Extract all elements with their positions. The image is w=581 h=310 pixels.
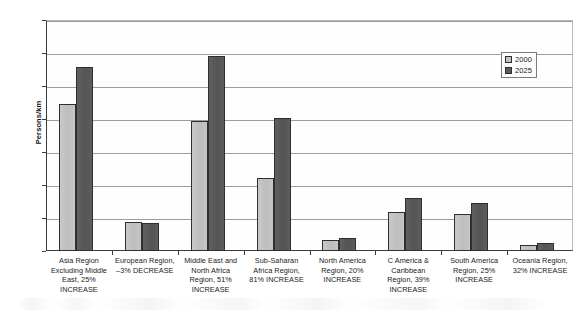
x-axis-tick-mark [507, 251, 508, 255]
legend-swatch-2000-icon [505, 56, 512, 63]
gridline [47, 153, 572, 154]
y-axis-tick-mark [42, 119, 46, 120]
y-axis-tick-mark [42, 86, 46, 87]
x-axis-category-label: Sub-SaharanAfrica Region,81% INCREASE [241, 256, 313, 285]
y-axis-title: Persons/km [34, 78, 43, 168]
x-axis-tick-mark [112, 251, 113, 255]
gridline [47, 120, 572, 121]
legend-item-2025: 2025 [505, 66, 532, 75]
x-axis-tick-mark [244, 251, 245, 255]
legend-label-2000: 2000 [515, 55, 532, 64]
gridline [47, 87, 572, 88]
scan-artifact [0, 298, 581, 310]
x-axis-category-label: Asia RegionExcluding MiddleEast, 25%INCR… [43, 256, 115, 294]
y-axis-tick-mark [42, 251, 46, 252]
x-axis-category-label: Oceania Region,32% INCREASE [504, 256, 576, 275]
gridline [47, 54, 572, 55]
x-axis-tick-mark [178, 251, 179, 255]
x-axis-tick-mark [441, 251, 442, 255]
y-axis-tick-mark [42, 152, 46, 153]
y-axis-tick-mark [42, 53, 46, 54]
x-axis-category-label: European Region,–3% DECREASE [109, 256, 181, 275]
x-axis-category-label: C America &CaribbeanRegion, 39%INCREASE [372, 256, 444, 294]
bar-chart: Persons/km 01000200030004000500060007000… [0, 0, 581, 310]
legend-swatch-2025-icon [505, 67, 512, 74]
gridline [47, 21, 572, 22]
gridline [47, 219, 572, 220]
chart-legend: 2000 2025 [501, 52, 537, 78]
gridline [47, 186, 572, 187]
x-axis-category-label: South AmericaRegion, 25%INCREASE [438, 256, 510, 285]
y-axis-tick-mark [42, 218, 46, 219]
legend-item-2000: 2000 [505, 55, 532, 64]
x-axis-tick-mark [310, 251, 311, 255]
plot-area [46, 20, 573, 251]
x-axis-tick-mark [375, 251, 376, 255]
x-axis-category-label: Middle East andNorth AfricaRegion, 51%IN… [175, 256, 247, 294]
legend-label-2025: 2025 [515, 66, 532, 75]
x-axis-category-label: North AmericaRegion, 20%INCREASE [307, 256, 379, 285]
y-axis-tick-mark [42, 185, 46, 186]
y-axis-tick-mark [42, 20, 46, 21]
